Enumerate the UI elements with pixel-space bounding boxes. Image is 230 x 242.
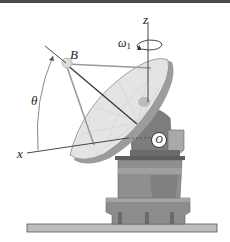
- theta-label: θ: [31, 94, 37, 107]
- z-axis-label: z: [143, 13, 148, 26]
- point-b-label: B: [70, 48, 78, 61]
- x-axis-label: x: [17, 147, 23, 160]
- bo-axis: [45, 46, 66, 63]
- omega-subscript: 1: [126, 41, 131, 51]
- theta-arc: [37, 56, 53, 150]
- ground-slab: [27, 224, 217, 232]
- origin-o-label: O: [151, 132, 167, 148]
- omega-label: ω1: [118, 37, 131, 51]
- telescope-diagram: [0, 0, 230, 242]
